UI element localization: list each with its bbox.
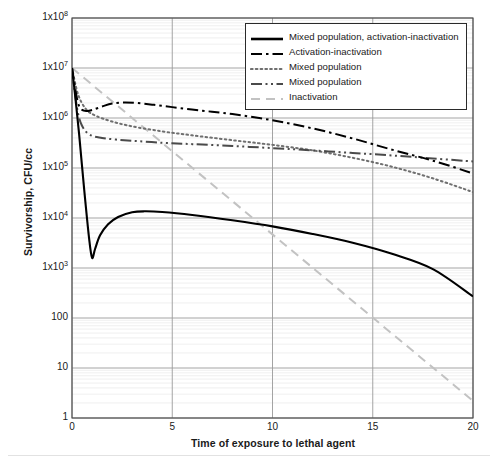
legend-item-label: Mixed population [289, 62, 362, 72]
legend-line-swatch [250, 31, 284, 43]
chart-legend: Mixed population, activation-inactivatio… [245, 23, 467, 110]
legend-item: Mixed population [250, 74, 462, 89]
legend-item: Inactivation [250, 89, 462, 104]
chart-figure: Survivorship, CFU/cc 1x1081x1071x1061x10… [0, 0, 498, 462]
legend-line-swatch [250, 61, 284, 73]
legend-item: Mixed population, activation-inactivatio… [250, 29, 462, 44]
legend-line-swatch [250, 76, 284, 88]
legend-item-label: Mixed population [289, 77, 362, 87]
legend-item-label: Inactivation [289, 92, 338, 102]
legend-item: Mixed population [250, 59, 462, 74]
legend-item-label: Mixed population, activation-inactivatio… [289, 32, 459, 42]
bottom-divider [8, 455, 490, 456]
legend-item: Activation-inactivation [250, 44, 462, 59]
legend-line-swatch [250, 46, 284, 58]
legend-line-swatch [250, 91, 284, 103]
legend-item-label: Activation-inactivation [289, 47, 382, 57]
